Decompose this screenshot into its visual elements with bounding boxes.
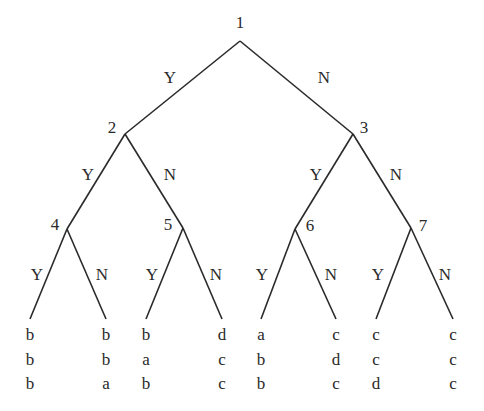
node-label: 6 (306, 217, 315, 234)
leaf-outcome: abb (253, 323, 269, 397)
edge-label-n: N (390, 166, 402, 183)
edge-label-y: Y (256, 266, 268, 283)
leaf-value: b (138, 372, 154, 397)
leaf-value: c (214, 348, 230, 373)
leaf-value: c (445, 323, 461, 348)
node-label: 7 (419, 217, 428, 234)
edge-label-y: Y (31, 266, 43, 283)
leaf-outcome: bba (98, 323, 114, 397)
leaf-value: b (138, 323, 154, 348)
leaf-value: b (22, 348, 38, 373)
leaf-outcome: dcc (214, 323, 230, 397)
edge-label-y: Y (372, 266, 384, 283)
leaf-value: c (214, 372, 230, 397)
edge-label-n: N (164, 166, 176, 183)
leaf-value: b (98, 348, 114, 373)
node-label: 5 (164, 216, 173, 233)
leaf-value: a (138, 348, 154, 373)
edge-label-n: N (96, 266, 108, 283)
leaf-value: b (22, 372, 38, 397)
leaf-value: a (253, 323, 269, 348)
leaf-value: b (98, 323, 114, 348)
leaf-value: b (253, 348, 269, 373)
node-label: 4 (51, 216, 60, 233)
edge-label-n: N (210, 266, 222, 283)
edge-label-n: N (439, 266, 451, 283)
leaf-value: c (368, 348, 384, 373)
edge-label-y: Y (164, 69, 176, 86)
leaf-outcome: bbb (22, 323, 38, 397)
leaf-value: d (328, 348, 344, 373)
node-label: 1 (236, 14, 245, 31)
leaf-value: d (214, 323, 230, 348)
edge-1-2 (125, 41, 240, 134)
edge-label-y: Y (146, 266, 158, 283)
leaf-outcome: ccc (445, 323, 461, 397)
leaf-value: c (328, 372, 344, 397)
edge-label-y: Y (310, 166, 322, 183)
edge-1-3 (240, 41, 353, 134)
leaf-outcome: cdc (328, 323, 344, 397)
decision-tree-edges (0, 0, 484, 411)
leaf-value: a (98, 372, 114, 397)
edge-2-4 (67, 134, 125, 229)
leaf-value: b (253, 372, 269, 397)
leaf-value: c (328, 323, 344, 348)
leaf-value: b (22, 323, 38, 348)
leaf-value: d (368, 372, 384, 397)
node-label: 2 (108, 119, 117, 136)
node-label: 3 (360, 119, 369, 136)
leaf-value: c (445, 348, 461, 373)
edge-label-n: N (318, 69, 330, 86)
leaf-outcome: bab (138, 323, 154, 397)
edge-label-y: Y (82, 166, 94, 183)
edge-label-n: N (325, 266, 337, 283)
leaf-outcome: ccd (368, 323, 384, 397)
edge-3-6 (295, 134, 353, 229)
edge-3-7 (353, 134, 411, 228)
leaf-value: c (368, 323, 384, 348)
leaf-value: c (445, 372, 461, 397)
